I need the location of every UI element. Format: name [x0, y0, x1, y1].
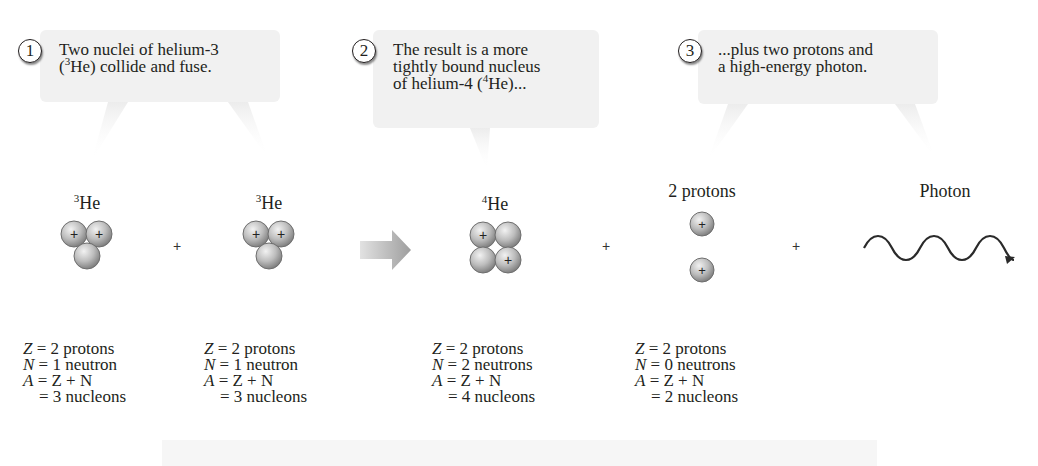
svg-text:+: +: [252, 226, 260, 242]
svg-text:+: +: [698, 263, 706, 278]
svg-text:+: +: [70, 226, 78, 242]
helium-4-label: 4He: [470, 194, 520, 215]
total-line: = 3 nucleons: [23, 389, 126, 405]
callout-1-line-1: Two nuclei of helium-3: [59, 41, 219, 58]
proton-1: +: [690, 212, 714, 236]
callout-1-text: Two nuclei of helium-3 (3He) collide and…: [59, 41, 219, 75]
equation-block-protons: Z = 2 protons N = 0 neutrons A = Z + N =…: [635, 341, 738, 405]
svg-text:+: +: [95, 226, 103, 242]
svg-text:+: +: [277, 226, 285, 242]
bottom-band: [162, 440, 877, 466]
callout-2-line-2: tightly bound nucleus: [393, 58, 540, 75]
helium-3-nucleus-1: + +: [61, 221, 112, 269]
equation-block-he3-2: Z = 2 protons N = 1 neutron A = Z + N = …: [204, 341, 307, 405]
plus-operator-3: +: [790, 238, 802, 254]
equation-block-he3-1: Z = 2 protons N = 1 neutron A = Z + N = …: [23, 341, 126, 405]
helium-3-nucleus-2: + +: [243, 221, 294, 269]
step-number-3: 3: [678, 39, 702, 63]
plus-operator-2: +: [600, 238, 612, 254]
photon-wave-icon: [864, 236, 1015, 264]
step-number-1: 1: [18, 39, 42, 63]
total-line: = 4 nucleons: [432, 389, 535, 405]
callout-2-line-1: The result is a more: [393, 41, 540, 58]
helium-4-nucleus: + +: [470, 222, 521, 273]
helium-3-label-1: 3He: [62, 193, 112, 214]
callout-3-line-2: a high-energy photon.: [718, 58, 873, 75]
step-number-2: 2: [352, 39, 376, 63]
plus-operator-1: +: [171, 238, 183, 254]
helium-3-label-2: 3He: [244, 193, 294, 214]
photon-label: Photon: [895, 181, 995, 202]
callout-1-line-2: (3He) collide and fuse.: [59, 58, 219, 75]
callout-3-line-1: ...plus two protons and: [718, 41, 873, 58]
proton-2: +: [690, 258, 714, 282]
total-line: = 3 nucleons: [204, 389, 307, 405]
reaction-arrow-icon: [360, 230, 411, 270]
svg-text:+: +: [504, 252, 512, 268]
svg-text:+: +: [698, 217, 706, 232]
callout-2-text: The result is a more tightly bound nucle…: [393, 41, 540, 92]
svg-text:+: +: [479, 227, 487, 243]
two-protons-label: 2 protons: [652, 181, 752, 202]
equation-block-he4: Z = 2 protons N = 2 neutrons A = Z + N =…: [432, 341, 535, 405]
callout-2-line-3: of helium-4 (4He)...: [393, 75, 540, 92]
total-line: = 2 nucleons: [635, 389, 738, 405]
callout-3-text: ...plus two protons and a high-energy ph…: [718, 41, 873, 75]
